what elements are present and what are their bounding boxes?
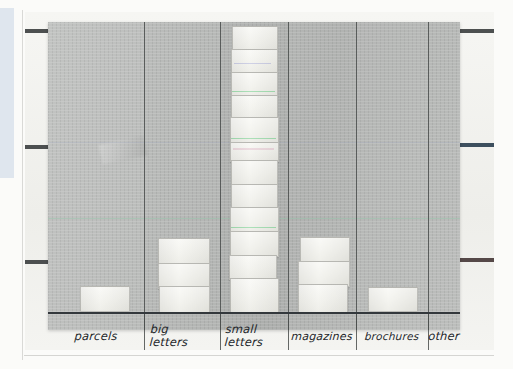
column-divider — [356, 22, 357, 330]
label-other: other — [426, 314, 461, 350]
label-brochures-line-1: brochures — [364, 330, 419, 343]
block-small-letters-5[interactable] — [231, 184, 278, 209]
label-parcels-line-1: parcels — [74, 330, 118, 343]
block-big-letters-1[interactable] — [159, 286, 210, 313]
block-small-letters-2[interactable] — [229, 255, 277, 280]
block-big-letters-3[interactable] — [158, 238, 210, 265]
wall-trim-strip — [454, 29, 494, 33]
page-margin-rule — [22, 10, 23, 360]
photograph: parcels big letters small letters magazi… — [25, 12, 494, 350]
block-small-letters-9[interactable] — [231, 95, 278, 119]
label-magazines: magazines — [286, 314, 357, 350]
block-small-letters-7[interactable] — [230, 142, 279, 162]
column-divider — [144, 22, 145, 330]
label-small-letters-line-2: letters — [224, 336, 263, 349]
page-left-color-strip — [0, 8, 14, 178]
block-magazines-1[interactable] — [298, 284, 348, 313]
label-big-letters-line-2: letters — [149, 336, 188, 349]
block-small-letters-12[interactable] — [232, 26, 278, 51]
graph-board: parcels big letters small letters magazi… — [48, 22, 460, 330]
block-small-letters-6[interactable] — [231, 160, 278, 186]
block-small-letters-10[interactable] — [231, 72, 278, 97]
label-big-letters: big letters — [142, 314, 221, 350]
column-divider — [288, 22, 289, 330]
page-bottom-rule — [24, 355, 494, 356]
label-small-letters: small letters — [218, 314, 289, 350]
block-small-letters-11[interactable] — [231, 49, 278, 74]
block-small-letters-3[interactable] — [230, 231, 279, 257]
label-parcels: parcels — [46, 314, 145, 350]
block-brochures-1[interactable] — [368, 287, 418, 312]
category-label-band: parcels big letters small letters magazi… — [48, 314, 460, 350]
block-small-letters-8[interactable] — [230, 117, 279, 144]
column-divider — [428, 22, 429, 330]
block-magazines-3[interactable] — [300, 237, 350, 263]
column-divider — [220, 22, 221, 330]
label-magazines-line-1: magazines — [291, 330, 353, 343]
label-brochures: brochures — [354, 314, 429, 350]
block-parcels-1[interactable] — [80, 286, 130, 312]
block-small-letters-4[interactable] — [230, 207, 279, 233]
label-other-line-1: other — [428, 330, 461, 343]
block-small-letters-1[interactable] — [230, 278, 279, 313]
screenshot-root: parcels big letters small letters magazi… — [0, 0, 513, 369]
